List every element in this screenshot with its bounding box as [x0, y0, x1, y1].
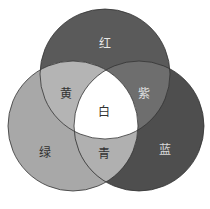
label-cyan: 青	[98, 147, 110, 161]
venn-diagram: 红 黄 紫 白 绿 青 蓝	[0, 0, 210, 209]
label-green: 绿	[39, 145, 51, 160]
label-purple: 紫	[138, 87, 150, 101]
label-white: 白	[98, 104, 110, 119]
label-blue: 蓝	[159, 143, 171, 157]
label-red: 红	[99, 36, 111, 51]
label-yellow: 黄	[60, 87, 72, 101]
